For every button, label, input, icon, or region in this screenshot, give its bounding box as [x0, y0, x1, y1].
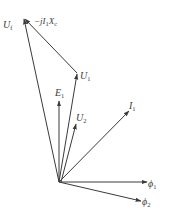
vector-uf	[24, 19, 59, 182]
vector-phi2	[59, 182, 141, 201]
label-phi1: ϕ1	[148, 178, 156, 190]
label-u2: U2	[76, 112, 86, 124]
label-uf: Uf	[3, 19, 13, 31]
vector-u2	[61, 124, 76, 182]
vector-jixc	[25, 19, 77, 73]
label-jixc: −jI1Xc	[34, 16, 57, 27]
label-u1: U1	[80, 70, 90, 82]
label-phi2: ϕ2	[142, 196, 150, 208]
label-i1: I1	[128, 100, 136, 112]
label-e1: E1	[54, 87, 64, 99]
phasor-diagram: Uf −jI1Xc U1 E1 U2 I1 ϕ1 ϕ2	[0, 0, 171, 219]
